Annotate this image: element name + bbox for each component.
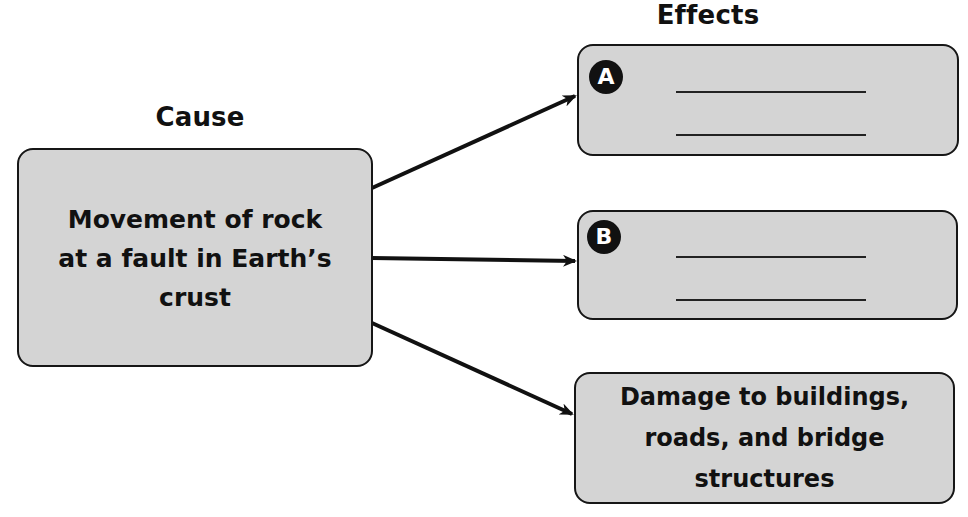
answer-line-a1[interactable] (676, 91, 866, 93)
arrow-to-effect-c (372, 323, 572, 414)
effect-box-b: B (577, 210, 958, 320)
effect-box-a: A (577, 44, 959, 156)
arrow-to-effect-a (372, 96, 575, 188)
label-a-badge: A (589, 60, 623, 94)
answer-line-b1[interactable] (676, 256, 866, 258)
arrow-to-effect-b (372, 258, 575, 261)
effect-c-text: Damage to buildings, roads, and bridge s… (576, 377, 953, 500)
effect-box-c: Damage to buildings, roads, and bridge s… (574, 372, 955, 504)
answer-line-a2[interactable] (676, 134, 866, 136)
cause-text: Movement of rock at a fault in Earth’s c… (19, 200, 371, 317)
answer-line-b2[interactable] (676, 299, 866, 301)
cause-box: Movement of rock at a fault in Earth’s c… (17, 148, 373, 367)
label-b-badge: B (587, 220, 621, 254)
